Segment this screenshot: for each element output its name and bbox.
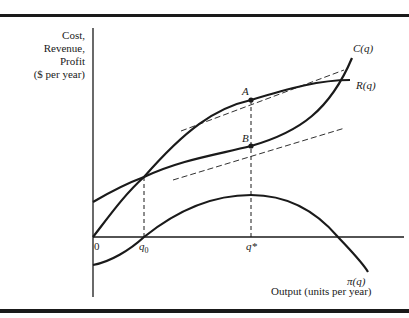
profit-curve [93,195,368,272]
cost-curve [93,58,352,237]
point-B-label: B [242,132,249,144]
profit-curve-label: π(q) [347,275,365,287]
y-axis-label-line-3: Profit [34,55,85,68]
y-axis-label-line-4: ($ per year) [34,68,85,81]
q0-tick-sub: 0 [145,246,149,255]
revenue-curve-label: R(q) [356,79,376,91]
origin-label: 0 [94,240,100,252]
q0-tick-label: q0 [139,240,149,255]
point-B-marker [248,143,253,148]
y-axis-label-line-1: Cost, [34,29,85,42]
point-A-label: A [242,85,249,97]
y-axis-label: Cost, Revenue, Profit ($ per year) [34,29,85,81]
tangent-at-A [181,70,344,131]
point-A-marker [248,97,253,102]
tangent-at-B [173,128,345,180]
y-axis-label-line-2: Revenue, [34,42,85,55]
revenue-curve [93,80,350,202]
qstar-tick-label: q* [246,240,257,252]
cost-curve-label: C(q) [353,42,373,54]
